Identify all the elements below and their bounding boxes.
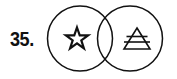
venn-diagram-svg — [44, 0, 170, 79]
puzzle-item-screenshot: 35. — [0, 0, 177, 79]
star-icon — [66, 28, 88, 49]
triangle-outline — [124, 28, 150, 49]
item-number-label: 35. — [10, 27, 39, 51]
stacked-triangle-icon — [124, 28, 150, 49]
left-circle — [48, 6, 113, 71]
venn-diagram-figure — [44, 0, 170, 79]
